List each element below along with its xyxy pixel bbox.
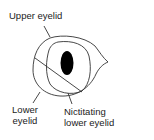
- pupil: [61, 51, 74, 75]
- lower-eyelid-label-line2: eyelid: [8, 115, 42, 126]
- upper-eyelid-leader: [44, 26, 50, 37]
- nictitating-label-line2: lower eyelid: [64, 117, 114, 128]
- lower-eyelid-label: Lower eyelid: [8, 104, 42, 126]
- nictitating-lower-eyelid-label: Nictitating lower eyelid: [64, 106, 114, 128]
- nictitating-membrane-edge: [35, 58, 82, 92]
- nictitating-label-line1: Nictitating: [64, 106, 114, 117]
- lower-eyelid-label-line1: Lower: [8, 104, 42, 115]
- upper-eyelid-label: Upper eyelid: [9, 10, 62, 21]
- lower-eyelid-leader: [33, 92, 40, 103]
